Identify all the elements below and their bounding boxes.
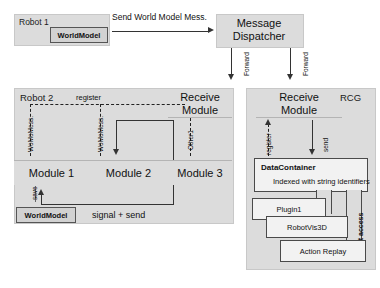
message-dispatcher-title-line1: Message <box>216 17 302 30</box>
robot2-signal-send-label: signal + send <box>92 210 145 220</box>
rcg-receive-module-underline <box>256 117 342 118</box>
robot2-signal-return-line <box>41 204 174 205</box>
robot2-register-label: register <box>76 93 101 102</box>
forward-left-arrow-line <box>231 48 232 75</box>
rcg-data-container-title: DataContainer <box>261 163 316 172</box>
rcg-send-arrow-head <box>309 149 315 155</box>
forward-right-arrow-head <box>287 74 293 80</box>
robot2-module-2: Module 2 <box>89 160 169 185</box>
rcg-data-container-box: DataContainer Indexed with string identi… <box>254 158 368 192</box>
robot2-panel-label: Robot 2 <box>20 92 53 103</box>
rcg-plugin-2-label: RobotVis3D <box>267 223 347 232</box>
send-world-model-arrow-line <box>112 31 209 32</box>
robot2-module-1: Module 1 <box>14 160 90 185</box>
robot2-solid-bus-down-to-module2 <box>116 120 117 150</box>
robot2-solid-bus-top <box>116 120 174 121</box>
robot2-save-arrow-head <box>38 189 44 195</box>
robot2-receive-module-line1: Receive <box>170 91 230 104</box>
robot2-module-1-label: Module 1 <box>29 167 74 179</box>
message-dispatcher-title: Message Dispatcher <box>216 17 302 43</box>
robot2-module2-arrow-head <box>113 149 119 155</box>
rcg-receive-module-line1: Receive <box>258 91 340 104</box>
robot2-womomess-label-1: WoMoMess. <box>27 116 34 152</box>
robot2-register-dashed-bus <box>30 104 185 105</box>
rcg-receive-module-title: Receive Module <box>258 91 340 117</box>
forward-right-label: Forward <box>302 52 309 76</box>
rcg-plugin-1-label: Plugin1 <box>253 205 325 214</box>
rcg-receive-module-line2: Module <box>258 104 340 117</box>
robot2-module-3-label: Module 3 <box>177 167 222 179</box>
forward-left-arrow-head <box>228 74 234 80</box>
rcg-plugin-3-label: Action Replay <box>281 247 365 256</box>
robot2-module-2-label: Module 2 <box>106 167 151 179</box>
robot2-worldmodel-box: WorldModel <box>16 207 76 223</box>
rcg-send-label: send <box>322 138 329 152</box>
rcg-plugin-3: Action Replay <box>280 240 366 262</box>
diagram-root: { "robot1": { "panel_label": "Robot 1", … <box>0 0 380 288</box>
send-world-model-arrow-head <box>208 27 214 33</box>
robot2-save-label: save <box>31 186 38 200</box>
robot1-panel-label: Robot 1 <box>19 17 49 27</box>
robot1-worldmodel-box: WorldModel <box>50 27 108 43</box>
robot1-worldmodel-label: WorldModel <box>58 31 101 40</box>
rcg-data-container-subtitle: Indexed with string identifiers <box>273 177 370 186</box>
robot2-other1-label: Other1 <box>187 130 194 150</box>
robot2-module-3: Module 3 <box>168 160 232 185</box>
rcg-send-line <box>312 120 313 150</box>
robot2-receive-module-line2: Module <box>170 104 230 117</box>
forward-left-label: Forward <box>243 52 250 76</box>
robot2-signal-return-up <box>41 194 42 205</box>
forward-right-arrow-line <box>290 48 291 75</box>
message-dispatcher-title-line2: Dispatcher <box>216 30 302 43</box>
robot2-receive-module-underline <box>168 117 232 118</box>
send-world-model-mess-label: Send World Model Mess. <box>112 12 207 22</box>
robot2-womomess-label-2: WoMoMess. <box>97 116 104 152</box>
rcg-register-label: register <box>265 133 272 155</box>
rcg-panel-label: RCG <box>340 92 361 103</box>
robot2-worldmodel-label: WorldModel <box>25 211 68 220</box>
rcg-register-arrow-head <box>265 119 271 125</box>
rcg-plugin-2: RobotVis3D <box>266 216 348 238</box>
